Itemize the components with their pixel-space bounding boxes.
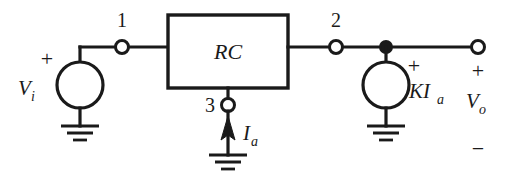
dependent-source-label-subscript: a xyxy=(437,92,444,107)
rc-block-label: RC xyxy=(213,39,242,64)
dependent-current-source-symbol xyxy=(363,62,409,108)
terminal-node-1[interactable] xyxy=(116,41,129,54)
dependent-source-label: KI xyxy=(408,79,431,103)
vi-plus-sign: + xyxy=(41,46,53,71)
terminal-node-2[interactable] xyxy=(330,41,343,54)
node-3-label: 3 xyxy=(205,94,215,116)
terminal-output-positive[interactable] xyxy=(472,41,485,54)
ground-symbol-center xyxy=(209,155,247,169)
circuit-diagram: + V i 1 RC 3 I a 2 xyxy=(0,0,511,178)
node-2-label: 2 xyxy=(331,9,341,31)
schematic-canvas: + V i 1 RC 3 I a 2 xyxy=(0,0,511,178)
ia-label-subscript: a xyxy=(251,134,258,149)
vo-label-subscript: o xyxy=(479,102,486,117)
vi-label-subscript: i xyxy=(31,89,35,104)
voltage-source-vi-symbol xyxy=(57,62,103,108)
ia-label: I xyxy=(242,121,251,145)
dependent-source-plus-sign: + xyxy=(408,53,420,78)
ground-symbol-right xyxy=(367,126,405,140)
vo-minus-sign: − xyxy=(472,136,484,161)
vo-plus-sign: + xyxy=(472,58,484,83)
node-1-label: 1 xyxy=(117,9,127,31)
ground-symbol-left xyxy=(61,126,99,140)
